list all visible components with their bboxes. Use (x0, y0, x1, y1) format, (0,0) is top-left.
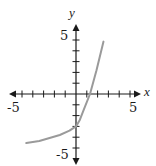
x-axis-left-arrow-icon (9, 91, 16, 98)
y-axis-up-arrow-icon (73, 24, 80, 31)
x-max-tick-label: 5 (129, 100, 137, 115)
x-axis-right-arrow-icon (134, 91, 141, 98)
x-axis-label: x (143, 84, 150, 99)
y-min-tick-label: -5 (56, 147, 69, 162)
y-max-tick-label: 5 (60, 28, 68, 43)
axes (9, 24, 141, 165)
y-axis-label: y (67, 5, 75, 20)
y-axis-down-arrow-icon (73, 158, 80, 165)
coordinate-plot: y x 5 -5 -5 5 (0, 0, 156, 166)
x-min-tick-label: -5 (7, 100, 20, 115)
